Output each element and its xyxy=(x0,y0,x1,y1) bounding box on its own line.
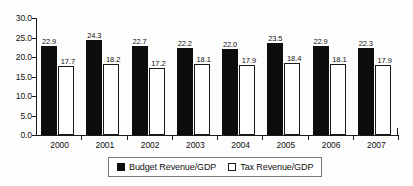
bar-tax-revenue: 18.2 xyxy=(103,64,119,135)
bar-value-label: 23.5 xyxy=(268,34,282,43)
bar-value-label: 22.7 xyxy=(132,37,146,46)
bar-group: 22.218.1 xyxy=(173,18,218,135)
chart-legend: Budget Revenue/GDP Tax Revenue/GDP xyxy=(108,157,322,177)
x-axis-tick-mark xyxy=(398,135,399,140)
legend-item-budget-revenue: Budget Revenue/GDP xyxy=(117,162,216,172)
bar-group: 22.317.9 xyxy=(354,18,399,135)
bar-budget-revenue: 22.9 xyxy=(41,46,57,135)
bar-value-label: 22.3 xyxy=(359,39,373,48)
bar-budget-revenue: 22.9 xyxy=(313,46,329,135)
legend-label-budget-revenue: Budget Revenue/GDP xyxy=(129,162,216,172)
hollow-square-icon xyxy=(228,163,236,171)
x-axis-label: 2002 xyxy=(128,140,173,150)
bar-value-label: 17.2 xyxy=(151,59,165,68)
x-axis-label: 2004 xyxy=(218,140,263,150)
bar-value-label: 18.4 xyxy=(287,54,301,63)
bar-value-label: 22.9 xyxy=(313,37,327,46)
bar-group: 24.318.2 xyxy=(82,18,127,135)
filled-square-icon xyxy=(117,163,125,171)
bar-group: 22.918.1 xyxy=(309,18,354,135)
bar-value-label: 18.2 xyxy=(106,55,120,64)
bar-budget-revenue: 24.3 xyxy=(86,40,102,135)
bar-value-label: 18.1 xyxy=(197,55,211,64)
x-axis-label: 2001 xyxy=(82,140,127,150)
x-axis-label: 2000 xyxy=(37,140,82,150)
bar-tax-revenue: 17.7 xyxy=(58,66,74,135)
bar-value-label: 17.9 xyxy=(378,56,392,65)
legend-label-tax-revenue: Tax Revenue/GDP xyxy=(240,162,313,172)
bar-value-label: 22.9 xyxy=(42,37,56,46)
bar-value-label: 22.0 xyxy=(223,40,237,49)
bar-value-label: 17.7 xyxy=(61,57,75,66)
bar-group: 22.017.9 xyxy=(218,18,263,135)
bar-group: 22.717.2 xyxy=(128,18,173,135)
bar-tax-revenue: 18.1 xyxy=(194,64,210,135)
bar-value-label: 22.2 xyxy=(178,39,192,48)
bar-budget-revenue: 22.2 xyxy=(177,48,193,135)
x-axis-label: 2005 xyxy=(263,140,308,150)
bar-tax-revenue: 17.2 xyxy=(149,68,165,135)
bar-budget-revenue: 22.0 xyxy=(222,49,238,135)
plot-area: 22.917.724.318.222.717.222.218.122.017.9… xyxy=(36,18,398,135)
x-axis-label: 2006 xyxy=(309,140,354,150)
y-axis-tick-mark xyxy=(32,135,36,136)
x-axis-label: 2007 xyxy=(354,140,399,150)
bar-tax-revenue: 18.1 xyxy=(330,64,346,135)
bar-group: 22.917.7 xyxy=(37,18,82,135)
bar-tax-revenue: 17.9 xyxy=(239,65,255,135)
bar-value-label: 18.1 xyxy=(332,55,346,64)
x-axis-label: 2003 xyxy=(173,140,218,150)
bar-tax-revenue: 18.4 xyxy=(284,63,300,135)
bar-chart: 30.025.020.015.010.05.00.0 22.917.724.31… xyxy=(0,0,413,186)
bar-budget-revenue: 22.7 xyxy=(132,46,148,135)
bar-value-label: 24.3 xyxy=(87,31,101,40)
bar-budget-revenue: 23.5 xyxy=(267,43,283,135)
bar-budget-revenue: 22.3 xyxy=(358,48,374,135)
legend-item-tax-revenue: Tax Revenue/GDP xyxy=(228,162,313,172)
bar-tax-revenue: 17.9 xyxy=(375,65,391,135)
bar-value-label: 17.9 xyxy=(242,56,256,65)
bar-group: 23.518.4 xyxy=(263,18,308,135)
